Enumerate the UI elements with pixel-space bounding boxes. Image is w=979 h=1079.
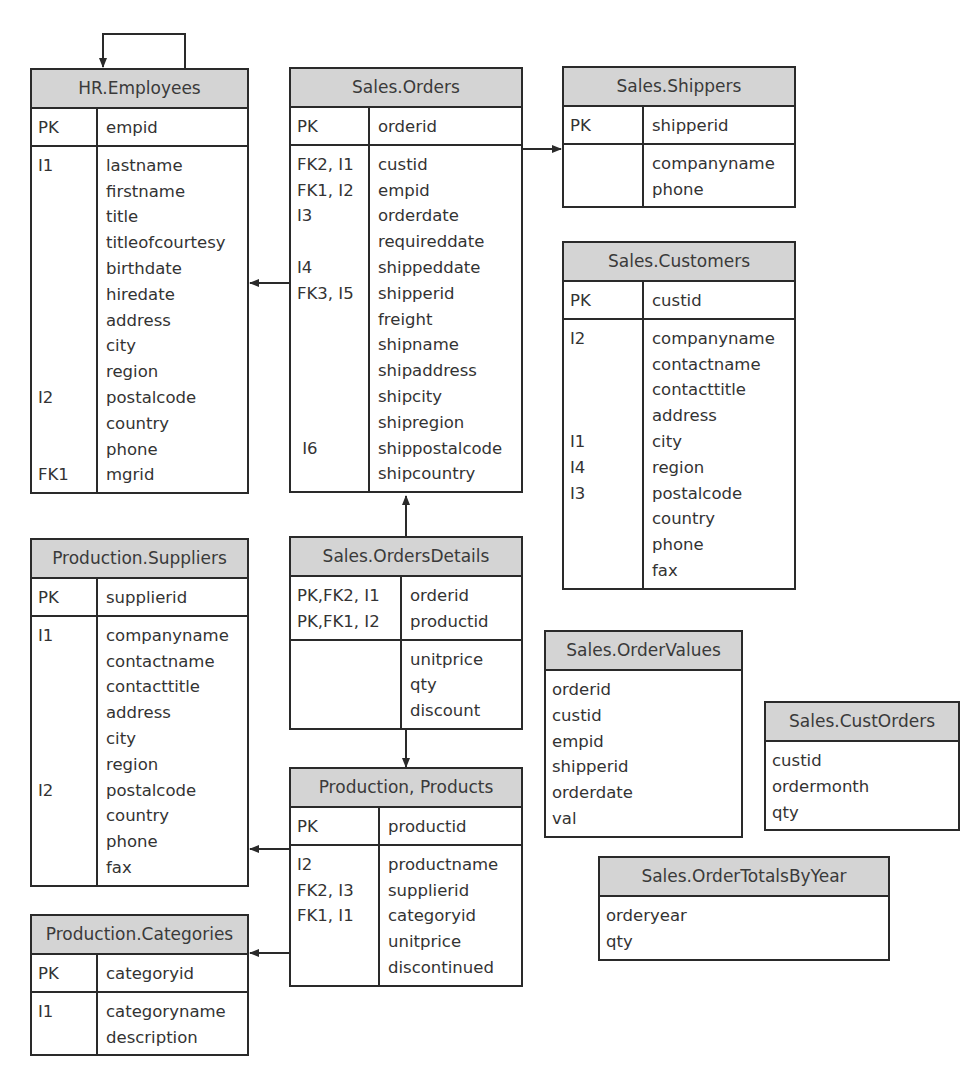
column-names: orderid productid [402, 577, 521, 639]
attribute-section: FK2, I1 FK1, I2 I3 I4 FK3, I5 I6 custid … [291, 144, 521, 491]
column-name: contacttitle [106, 674, 241, 700]
column-name: orderdate [378, 203, 515, 229]
key-marker [38, 282, 90, 308]
column-name: titleofcourtesy [106, 230, 241, 256]
pk-section: PK categoryid [32, 955, 247, 991]
key-column [291, 641, 402, 728]
column-name: empid [378, 178, 515, 204]
key-marker [38, 829, 90, 855]
key-marker: FK1, I1 [297, 903, 372, 929]
key-column: I1 I2 FK1 [32, 147, 98, 492]
key-marker [297, 307, 362, 333]
attribute-section: I2 I1 I4 I3 companyname contactname cont… [564, 318, 794, 588]
key-column [564, 145, 644, 207]
column-name: custid [652, 288, 788, 314]
column-name: unitprice [410, 647, 515, 673]
entity-sales-ordersdetails[interactable]: Sales.OrdersDetails PK,FK2, I1 PK,FK1, I… [289, 536, 523, 730]
entity-production-suppliers[interactable]: Production.Suppliers PK supplierid I1 I2… [30, 538, 249, 887]
key-marker [38, 752, 90, 778]
column-names: custid [644, 282, 794, 318]
view-sales-ordertotalsbyyear[interactable]: Sales.OrderTotalsByYear orderyear qty [598, 856, 890, 961]
column-name: shipperid [378, 281, 515, 307]
entity-production-categories[interactable]: Production.Categories PK categoryid I1 c… [30, 914, 249, 1056]
column-name: region [652, 455, 788, 481]
key-marker [570, 177, 636, 203]
column-name: categoryid [106, 961, 241, 987]
column-names: productname supplierid categoryid unitpr… [380, 846, 521, 985]
column-names: companyname contactname contacttitle add… [98, 617, 247, 885]
entity-sales-shippers[interactable]: Sales.Shippers PK shipperid companyname … [562, 66, 796, 208]
column-name: orderid [552, 677, 735, 703]
column-name: orderdate [552, 780, 735, 806]
key-marker [570, 151, 636, 177]
column-name: qty [772, 800, 952, 826]
key-marker [297, 955, 372, 981]
key-marker [570, 558, 636, 584]
key-marker: I1 [38, 153, 90, 179]
column-name: description [106, 1025, 241, 1051]
entity-hr-employees[interactable]: HR.Employees PK empid I1 I2 FK1 lastname… [30, 68, 249, 494]
key-column: PK [291, 108, 370, 144]
key-marker [297, 384, 362, 410]
key-marker [297, 929, 372, 955]
column-name: custid [378, 152, 515, 178]
column-name: contactname [652, 352, 788, 378]
column-name: fax [652, 558, 788, 584]
column-name: address [652, 403, 788, 429]
column-name: region [106, 752, 241, 778]
entity-sales-customers[interactable]: Sales.Customers PK custid I2 I1 I4 I3 co… [562, 241, 796, 590]
key-marker [38, 204, 90, 230]
column-name: companyname [652, 326, 788, 352]
entity-title: Sales.Orders [291, 69, 521, 108]
key-marker: FK1 [38, 462, 90, 488]
column-name: shipcity [378, 384, 515, 410]
column-name: address [106, 308, 241, 334]
column-name: shipperid [552, 754, 735, 780]
column-section: orderyear qty [600, 897, 888, 959]
column-names: companyname phone [644, 145, 794, 207]
key-marker: PK [38, 585, 90, 611]
column-name: productname [388, 852, 515, 878]
entity-production-products[interactable]: Production, Products PK productid I2 FK2… [289, 767, 523, 987]
key-marker: PK [38, 115, 90, 141]
key-marker: PK [570, 113, 636, 139]
key-marker: I3 [297, 203, 362, 229]
entity-title: Sales.Customers [564, 243, 794, 282]
entity-title: Production, Products [291, 769, 521, 808]
column-name: custid [772, 748, 952, 774]
column-name: qty [410, 672, 515, 698]
attribute-section: I2 FK2, I3 FK1, I1 productname supplieri… [291, 844, 521, 985]
column-name: qty [606, 929, 882, 955]
column-name: postalcode [106, 778, 241, 804]
column-names: orderyear qty [600, 897, 888, 959]
key-marker [38, 179, 90, 205]
entity-sales-orders[interactable]: Sales.Orders PK orderid FK2, I1 FK1, I2 … [289, 67, 523, 493]
pk-section: PK supplierid [32, 579, 247, 615]
key-marker [297, 461, 362, 487]
key-marker [297, 229, 362, 255]
column-name: country [106, 411, 241, 437]
key-column: I1 I2 [32, 617, 98, 885]
column-name: fax [106, 855, 241, 881]
key-column: PK [564, 282, 644, 318]
view-sales-custorders[interactable]: Sales.CustOrders custid ordermonth qty [764, 701, 960, 831]
key-marker: I4 [570, 455, 636, 481]
key-marker [570, 403, 636, 429]
column-name: region [106, 359, 241, 385]
key-marker: I1 [570, 429, 636, 455]
column-names: custid ordermonth qty [766, 742, 958, 829]
column-names: shipperid [644, 107, 794, 143]
column-names: lastname firstname title titleofcourtesy… [98, 147, 247, 492]
key-marker [38, 308, 90, 334]
key-marker: I2 [297, 852, 372, 878]
key-marker [38, 803, 90, 829]
key-column: I2 I1 I4 I3 [564, 320, 644, 588]
key-marker: FK3, I5 [297, 281, 362, 307]
key-marker [297, 410, 362, 436]
entity-title: Sales.OrderTotalsByYear [600, 858, 888, 897]
column-name: val [552, 806, 735, 832]
key-marker [38, 700, 90, 726]
key-marker: PK [297, 114, 362, 140]
view-sales-ordervalues[interactable]: Sales.OrderValues orderid custid empid s… [544, 630, 743, 838]
key-marker: I1 [38, 999, 90, 1025]
